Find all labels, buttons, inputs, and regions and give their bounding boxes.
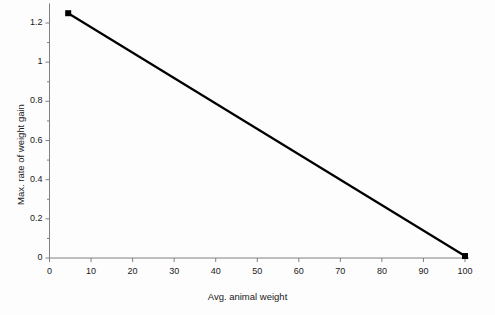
y-axis-tick-label: 0 (0, 253, 43, 262)
y-axis-tick-label: 1 (0, 57, 43, 66)
chart-container: 00.20.40.60.811.2 0102030405060708090100… (0, 0, 495, 315)
x-axis-tick-label: 60 (279, 267, 319, 276)
x-axis-tick-label: 0 (30, 267, 70, 276)
x-axis-tick-label: 40 (196, 267, 236, 276)
x-axis-tick-label: 50 (237, 267, 277, 276)
series-line (68, 13, 465, 256)
x-axis-tick-label: 70 (320, 267, 360, 276)
x-axis-tick-label: 80 (362, 267, 402, 276)
data-point-marker (65, 10, 71, 16)
x-axis-tick-label: 90 (403, 267, 443, 276)
x-axis-tick-label: 20 (113, 267, 153, 276)
tick-marks (46, 23, 466, 262)
x-axis-tick-label: 10 (71, 267, 111, 276)
data-point-marker (462, 253, 468, 259)
data-series (65, 10, 468, 259)
y-axis-tick-label: 1.2 (0, 18, 43, 27)
y-axis-tick-label: 0.2 (0, 214, 43, 223)
x-axis-title: Avg. animal weight (0, 292, 495, 302)
x-axis-tick-label: 100 (445, 267, 485, 276)
x-axis-tick-label: 30 (154, 267, 194, 276)
y-axis-title: Max. rate of weight gain (16, 104, 26, 205)
